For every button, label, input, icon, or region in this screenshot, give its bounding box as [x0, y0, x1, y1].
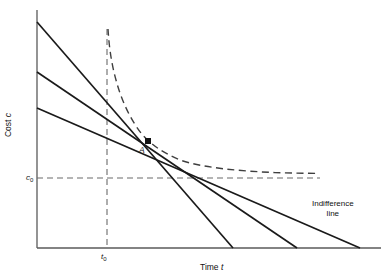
point-a-marker	[145, 138, 151, 144]
plot-canvas	[0, 0, 385, 280]
indifference-annotation-line-2: line	[312, 209, 354, 219]
x-axis-title-symbol: t	[221, 262, 223, 272]
x-axis-title: Time t	[200, 263, 223, 273]
x-axis-title-text: Time	[200, 262, 221, 272]
x-tick-label-t0: t0	[101, 252, 107, 263]
cost-time-tradeoff-chart: Cost c Time t c0 t0 A Indifference line	[0, 0, 385, 280]
y-tick-label-c0: c0	[26, 173, 33, 184]
y-axis-title-text: Cost	[3, 117, 13, 137]
t0-subscript: 0	[103, 256, 106, 262]
indifference-annotation-line-1: Indifference	[312, 199, 354, 209]
y-axis-title: Cost c	[4, 113, 14, 137]
indifference-line-2	[37, 72, 297, 248]
indifference-line-annotation: Indifference line	[312, 199, 354, 219]
y-axis-title-symbol: c	[3, 113, 13, 117]
c0-subscript: 0	[30, 177, 33, 183]
indifference-line-1	[37, 22, 233, 248]
point-a-label: A	[139, 146, 145, 156]
